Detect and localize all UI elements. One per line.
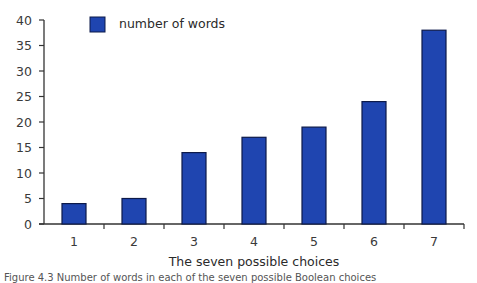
legend-swatch [90, 17, 105, 32]
legend-label: number of words [119, 16, 225, 31]
y-tick-label: 35 [16, 38, 32, 53]
bar [362, 102, 386, 224]
y-axis: 0510152025303540 [16, 13, 44, 232]
x-tick-label: 3 [190, 234, 198, 249]
x-tick-label: 1 [70, 234, 78, 249]
y-tick-label: 20 [16, 115, 32, 130]
y-tick-label: 25 [16, 89, 32, 104]
y-tick-label: 0 [24, 217, 32, 232]
figure-caption: Figure 4.3 Number of words in each of th… [4, 272, 376, 283]
bar [422, 30, 446, 224]
bar [62, 204, 86, 224]
bar [302, 127, 326, 224]
bar [242, 137, 266, 224]
legend: number of words [90, 16, 225, 32]
bar-series [62, 30, 446, 224]
bar [182, 153, 206, 224]
y-tick-label: 15 [16, 140, 32, 155]
y-tick-label: 40 [16, 13, 32, 28]
x-tick-label: 6 [370, 234, 378, 249]
x-axis: 1234567 [39, 224, 464, 249]
x-tick-label: 7 [430, 234, 438, 249]
bar [122, 199, 146, 225]
y-tick-label: 30 [16, 64, 32, 79]
x-tick-label: 5 [310, 234, 318, 249]
x-tick-label: 4 [250, 234, 258, 249]
y-tick-label: 10 [16, 166, 32, 181]
y-tick-label: 5 [24, 191, 32, 206]
x-tick-label: 2 [130, 234, 138, 249]
x-axis-title: The seven possible choices [168, 254, 340, 269]
